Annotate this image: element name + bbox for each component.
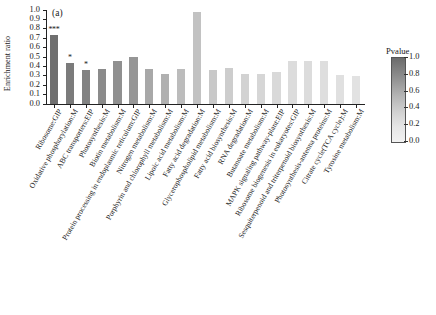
bar xyxy=(193,12,201,103)
y-tick-label: 0.1 xyxy=(30,90,40,98)
y-axis-tick-labels: 1.00.90.80.70.60.50.40.30.20.10.0 xyxy=(16,5,42,108)
x-tick-mark xyxy=(340,105,341,108)
bar xyxy=(129,57,137,103)
bar xyxy=(161,74,169,103)
y-tick-label: 0.9 xyxy=(30,15,40,23)
bar xyxy=(288,61,296,103)
x-tick-mark xyxy=(292,105,293,108)
bar xyxy=(304,61,312,103)
x-tick-mark xyxy=(118,105,119,108)
x-axis-label: Photosynthesis-antenna proteins:M xyxy=(274,108,334,204)
bar: * xyxy=(66,63,74,103)
colorbar-tick-label: 0.6 xyxy=(409,86,419,94)
bar xyxy=(272,72,280,103)
x-tick-mark xyxy=(165,105,166,108)
x-axis-line xyxy=(46,104,365,105)
x-axis-label: Lipoic acid metabolism:M xyxy=(144,108,191,182)
colorbar-tick-label: 0.2 xyxy=(409,120,419,128)
x-axis-label: Glycerophospholipid metabolism:M xyxy=(161,108,223,207)
bar xyxy=(257,74,265,103)
x-axis-label: Protein processing in endoplasmic reticu… xyxy=(62,108,143,241)
enrichment-ratio-bar-chart-figure: Enrichment ratio 1.00.90.80.70.60.50.40.… xyxy=(0,0,436,315)
plot-area: ***** xyxy=(46,10,364,104)
x-tick-mark xyxy=(356,105,357,108)
x-tick-mark xyxy=(213,105,214,108)
colorbar-title: Pvalue xyxy=(386,46,409,56)
bar xyxy=(352,76,360,103)
colorbar-tick-mark xyxy=(404,141,408,142)
bar xyxy=(320,61,328,103)
x-axis-label: Nitrogen metabolism:M xyxy=(116,108,159,175)
bar xyxy=(336,75,344,103)
bar: *** xyxy=(50,35,58,104)
significance-marker: * xyxy=(68,54,72,62)
x-axis-label: Ribosome:GIP xyxy=(34,108,63,151)
colorbar-tick-mark xyxy=(404,107,408,108)
colorbar-tick-mark xyxy=(404,124,408,125)
x-tick-mark xyxy=(324,105,325,108)
y-tick-label: 0.0 xyxy=(30,99,40,107)
bar xyxy=(209,70,217,104)
x-tick-mark xyxy=(70,105,71,108)
bar: * xyxy=(82,70,90,104)
bar xyxy=(145,69,153,104)
colorbar-tick-mark xyxy=(404,57,408,58)
y-tick-label: 0.7 xyxy=(30,33,40,41)
x-tick-mark xyxy=(102,105,103,108)
bar xyxy=(177,69,185,104)
x-tick-mark xyxy=(86,105,87,108)
y-tick-label: 0.6 xyxy=(30,43,40,51)
x-axis-label: Sesquiterpenoid and triterpenoid biosynt… xyxy=(238,108,318,239)
colorbar-tick-label: 0.8 xyxy=(409,70,419,78)
colorbar-tick-mark xyxy=(404,74,408,75)
x-tick-mark xyxy=(245,105,246,108)
x-tick-mark xyxy=(197,105,198,108)
significance-marker: * xyxy=(84,61,88,69)
pvalue-colorbar xyxy=(391,57,406,143)
x-tick-mark xyxy=(229,105,230,108)
x-axis-label: Fatty acid biosynthesis:M xyxy=(193,108,239,180)
y-tick-label: 0.2 xyxy=(30,80,40,88)
y-tick-label: 0.5 xyxy=(30,52,40,60)
x-tick-mark xyxy=(308,105,309,108)
x-axis-label: Porphyrin and chlorophyll metabolism:M xyxy=(105,108,175,221)
bar xyxy=(98,69,106,104)
y-tick-label: 0.4 xyxy=(30,62,40,70)
x-axis-label: Biotin metabolism:M xyxy=(88,108,127,168)
x-axis-label: RNA degradation:M xyxy=(217,108,255,166)
x-axis-label: Fatty acid degradation:M xyxy=(162,108,207,178)
x-axis-label: Oxidative phosphorylation:M xyxy=(28,108,80,190)
bar xyxy=(113,61,121,103)
x-axis-label: Tyrosine metabolism:M xyxy=(323,108,366,175)
colorbar-tick-label: 0.0 xyxy=(409,137,419,145)
x-axis-label: Butanoate metabolism:M xyxy=(225,108,270,178)
y-tick-label: 0.3 xyxy=(30,71,40,79)
x-axis-label: Photosynthesis:M xyxy=(77,108,111,159)
x-tick-mark xyxy=(149,105,150,108)
x-tick-mark xyxy=(277,105,278,108)
x-axis-label: ABC transporters:EIP xyxy=(55,108,95,170)
colorbar-tick-label: 0.4 xyxy=(409,103,419,111)
x-tick-mark xyxy=(133,105,134,108)
x-axis-label: Ribosome biogenesis in eukaryotes:GIP xyxy=(235,108,302,217)
x-axis-label: MAPK signaling pathway-plant:EIP xyxy=(224,108,286,208)
y-axis-title: Enrichment ratio xyxy=(2,18,14,108)
significance-marker: *** xyxy=(48,26,59,34)
x-tick-mark xyxy=(181,105,182,108)
x-axis-label: Citrate cycle(TCA cycle):M xyxy=(301,108,350,186)
colorbar-tick-mark xyxy=(404,91,408,92)
y-tick-label: 0.8 xyxy=(30,24,40,32)
x-tick-mark xyxy=(261,105,262,108)
colorbar-tick-label: 1.0 xyxy=(409,53,419,61)
y-tick-label: 1.0 xyxy=(30,5,40,13)
bar xyxy=(241,74,249,103)
x-tick-mark xyxy=(54,105,55,108)
bar xyxy=(225,68,233,104)
